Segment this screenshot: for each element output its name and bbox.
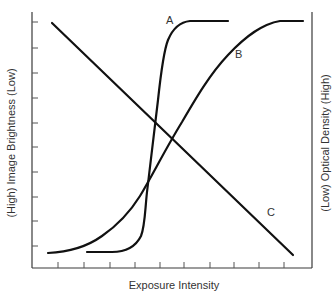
curve-a-label: A — [166, 14, 174, 26]
characteristic-curve-chart: A B C Exposure Intensity (High) Image Br… — [0, 0, 336, 294]
curve-a — [87, 21, 228, 252]
y-axis-right-title: (Low) Optical Density (High) — [319, 74, 331, 212]
curve-c-label: C — [267, 206, 275, 218]
y-axis-left-title: (High) Image Brightness (Low) — [5, 68, 17, 217]
y-ticks — [32, 22, 38, 246]
curve-b-label: B — [235, 48, 242, 60]
x-ticks — [58, 262, 284, 268]
x-axis-title: Exposure Intensity — [129, 279, 220, 291]
